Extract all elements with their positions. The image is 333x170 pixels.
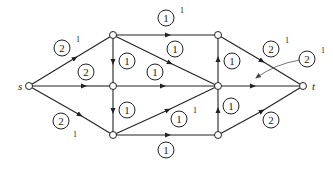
- svg-text:1: 1: [176, 113, 182, 125]
- label-s-B: 2: [78, 64, 94, 80]
- annotation-arrow: [256, 60, 300, 78]
- svg-text:2: 2: [58, 115, 64, 127]
- label-B-C: 1: [119, 102, 135, 118]
- node-B: [110, 83, 117, 90]
- svg-text:1: 1: [163, 12, 169, 24]
- svg-text:1: 1: [321, 46, 325, 55]
- svg-text:2: 2: [304, 53, 310, 65]
- edge-s-C: [29, 86, 113, 135]
- label-s-A: 2 1: [54, 35, 80, 56]
- node-D: [215, 32, 222, 39]
- svg-text:1: 1: [76, 35, 80, 44]
- label-F-t: 2: [263, 112, 279, 128]
- label-s-C: 2 1: [53, 113, 77, 139]
- label-D-t: 2 1: [263, 36, 289, 57]
- svg-text:1: 1: [163, 144, 169, 156]
- svg-text:1: 1: [193, 106, 197, 115]
- node-t-name: t: [312, 80, 316, 92]
- label-C-E: 1 1: [171, 106, 197, 127]
- svg-text:1: 1: [124, 55, 130, 67]
- node-F: [215, 132, 222, 139]
- node-C: [110, 132, 117, 139]
- svg-text:1: 1: [152, 66, 158, 78]
- label-A-B: 1: [119, 53, 135, 69]
- label-A-D: 1 1: [158, 6, 184, 26]
- flow-network-diagram: s t 2 1 2 2 1 1 1 1 1 1 1 1 1 1: [0, 0, 333, 170]
- svg-text:1: 1: [229, 55, 235, 67]
- label-B-E: 1: [147, 64, 163, 80]
- label-C-F: 1: [158, 142, 174, 158]
- label-E-t: 2 1: [299, 46, 325, 67]
- label-E-D: 1: [224, 53, 240, 69]
- label-A-E: 1: [167, 41, 183, 57]
- node-A: [110, 32, 117, 39]
- svg-text:2: 2: [59, 42, 65, 54]
- node-s: [26, 83, 33, 90]
- node-t: [300, 83, 307, 90]
- node-E: [215, 83, 222, 90]
- svg-text:1: 1: [124, 104, 130, 116]
- svg-text:1: 1: [228, 100, 234, 112]
- svg-text:2: 2: [268, 43, 274, 55]
- label-F-E: 1: [223, 98, 239, 114]
- node-s-name: s: [18, 80, 22, 92]
- svg-text:2: 2: [83, 66, 89, 78]
- svg-text:1: 1: [73, 130, 77, 139]
- edge-s-A: [29, 35, 113, 86]
- svg-text:1: 1: [285, 36, 289, 45]
- svg-text:2: 2: [268, 114, 274, 126]
- svg-text:1: 1: [172, 43, 178, 55]
- svg-text:1: 1: [180, 6, 184, 15]
